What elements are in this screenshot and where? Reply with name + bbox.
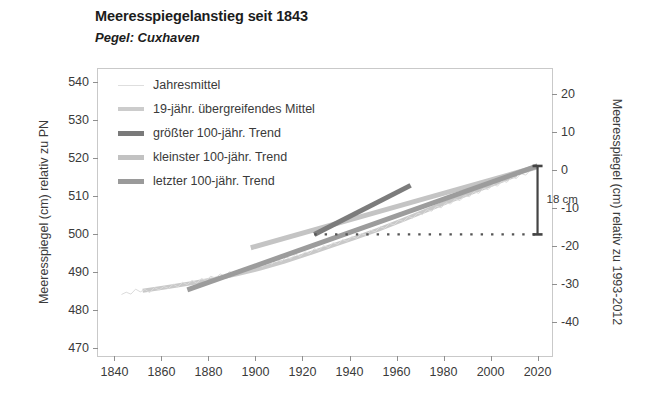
y-axis-left-tick-label: 500 <box>68 227 89 241</box>
legend-item[interactable]: Jahresmittel <box>118 73 315 97</box>
y-axis-left-tick-label: 540 <box>68 75 89 89</box>
y-axis-right-tick-label: -40 <box>561 315 579 329</box>
y-axis-left-tick-label: 530 <box>68 113 89 127</box>
y-axis-right-tick-label: -30 <box>561 277 579 291</box>
y-axis-left-tick <box>93 348 98 349</box>
x-axis-tick <box>208 356 209 361</box>
legend-item-label: kleinster 100-jähr. Trend <box>153 151 287 164</box>
legend-item-label: größter 100-jähr. Trend <box>153 127 281 140</box>
chart-subtitle: Pegel: Cuxhaven <box>95 30 200 45</box>
x-axis-tick <box>491 356 492 361</box>
annotation-error-bar <box>533 166 543 234</box>
legend-item-label: letzter 100-jähr. Trend <box>153 175 275 188</box>
x-axis-tick <box>397 356 398 361</box>
y-axis-right-tick <box>552 208 557 209</box>
legend-item[interactable]: kleinster 100-jähr. Trend <box>118 145 315 169</box>
legend-line-icon <box>118 85 144 86</box>
x-axis-tick-label: 1840 <box>101 365 129 379</box>
y-axis-right-tick <box>552 322 557 323</box>
x-axis-tick-label: 2020 <box>524 365 552 379</box>
y-axis-right-tick <box>552 284 557 285</box>
y-axis-left-tick <box>93 82 98 83</box>
x-axis-tick <box>538 356 539 361</box>
x-axis-tick-label: 1980 <box>430 365 458 379</box>
sea-level-chart-figure: Meeresspiegelanstieg seit 1843 Pegel: Cu… <box>0 0 646 401</box>
y-axis-left-title: Meeresspiegel (cm) relativ zu PN <box>37 82 51 342</box>
legend-line-icon <box>118 155 144 160</box>
legend-item[interactable]: letzter 100-jähr. Trend <box>118 169 315 193</box>
annotation-label: 18 cm <box>547 193 578 205</box>
y-axis-right-tick-label: 20 <box>561 87 575 101</box>
legend-item[interactable]: 19-jähr. übergreifendes Mittel <box>118 97 315 121</box>
x-axis-tick <box>161 356 162 361</box>
y-axis-left-tick-label: 480 <box>68 303 89 317</box>
legend-item-label: Jahresmittel <box>153 79 220 92</box>
y-axis-right-title: Meeresspiegel (cm) relativ zu 1993-2012 <box>610 82 624 342</box>
y-axis-left-tick-label: 510 <box>68 189 89 203</box>
y-axis-left-tick-label: 470 <box>68 341 89 355</box>
legend-line-icon <box>118 179 144 184</box>
x-axis-tick <box>114 356 115 361</box>
y-axis-left-tick <box>93 158 98 159</box>
y-axis-left-tick <box>93 310 98 311</box>
x-axis-tick <box>302 356 303 361</box>
y-axis-right-tick <box>552 94 557 95</box>
legend-item[interactable]: größter 100-jähr. Trend <box>118 121 315 145</box>
y-axis-right-tick <box>552 170 557 171</box>
x-axis-tick-label: 1880 <box>195 365 223 379</box>
y-axis-left-tick <box>93 272 98 273</box>
x-axis-tick-label: 1940 <box>336 365 364 379</box>
x-axis-tick <box>255 356 256 361</box>
y-axis-left-tick <box>93 120 98 121</box>
x-axis-tick-label: 1960 <box>383 365 411 379</box>
y-axis-right-tick <box>552 132 557 133</box>
x-axis-tick-label: 1860 <box>148 365 176 379</box>
x-axis-tick-label: 1920 <box>289 365 317 379</box>
y-axis-right-tick-label: 0 <box>561 163 568 177</box>
legend-line-icon <box>118 131 144 136</box>
x-axis-tick <box>350 356 351 361</box>
y-axis-left-tick <box>93 234 98 235</box>
x-axis-tick-label: 2000 <box>477 365 505 379</box>
y-axis-left-tick-label: 490 <box>68 265 89 279</box>
y-axis-right-tick <box>552 246 557 247</box>
x-axis-tick <box>444 356 445 361</box>
y-axis-right-tick-label: 10 <box>561 125 575 139</box>
legend-line-icon <box>118 107 144 111</box>
y-axis-right-tick-label: -20 <box>561 239 579 253</box>
page-title: Meeresspiegelanstieg seit 1843 <box>95 8 308 24</box>
plot-area: 470480490500510520530540-40-30-20-100102… <box>97 68 553 357</box>
y-axis-left-tick <box>93 196 98 197</box>
x-axis-tick-label: 1900 <box>242 365 270 379</box>
legend-item-label: 19-jähr. übergreifendes Mittel <box>153 103 315 116</box>
chart-legend: Jahresmittel19-jähr. übergreifendes Mitt… <box>118 73 315 193</box>
y-axis-left-tick-label: 520 <box>68 151 89 165</box>
